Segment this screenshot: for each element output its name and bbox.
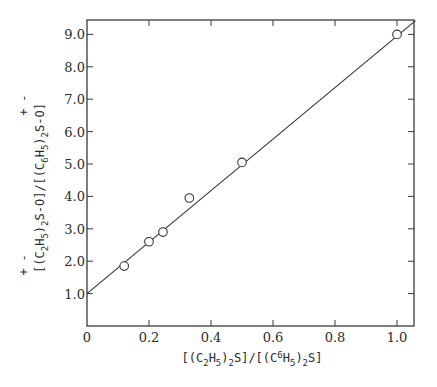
y-tick-label: 2.0	[64, 254, 85, 269]
x-tick-label: 0	[83, 330, 91, 345]
y-axis-title: [(C2H5)2S-O]/[(C6H5)2S-O] + - + -	[17, 94, 50, 275]
x-tick-label: 0.2	[139, 330, 160, 345]
y-title-charge-minus-left: -	[17, 254, 31, 261]
x-tick-label: 0.6	[263, 330, 284, 345]
data-points	[120, 30, 401, 270]
data-point	[120, 262, 129, 271]
x-tick-label: 0.4	[201, 330, 222, 345]
y-tick-label: 8.0	[64, 60, 85, 75]
y-tick-label: 7.0	[64, 92, 85, 107]
y-tick-label: 5.0	[64, 157, 85, 172]
data-point	[393, 30, 402, 39]
y-tick-label: 6.0	[64, 125, 85, 140]
y-title-charge-plus-left: +	[17, 268, 31, 275]
x-axis-title: [(C2H5)2S]/[(C6H5)2S]	[182, 350, 323, 368]
x-tick-label: 1.0	[387, 330, 408, 345]
svg-text:[(C2H5)2S-O]/[(C6H5)2S-O]: [(C2H5)2S-O]/[(C6H5)2S-O]	[33, 103, 50, 273]
plot-frame	[87, 20, 414, 326]
y-title-charge-plus-right: +	[17, 108, 31, 115]
y-tick-label: 1.0	[64, 287, 85, 302]
data-point	[238, 158, 247, 167]
fit-line	[87, 21, 416, 294]
x-axis-ticks: 00.20.40.60.81.0	[83, 20, 407, 345]
y-tick-label: 3.0	[64, 222, 85, 237]
chart: 00.20.40.60.81.0 1.02.03.04.05.06.07.08.…	[0, 0, 437, 387]
data-point	[145, 237, 154, 246]
data-point	[185, 194, 194, 203]
y-tick-label: 9.0	[64, 27, 85, 42]
data-point	[159, 228, 168, 237]
y-title-charge-minus-right: -	[17, 94, 31, 101]
y-tick-label: 4.0	[64, 189, 85, 204]
x-tick-label: 0.8	[325, 330, 346, 345]
